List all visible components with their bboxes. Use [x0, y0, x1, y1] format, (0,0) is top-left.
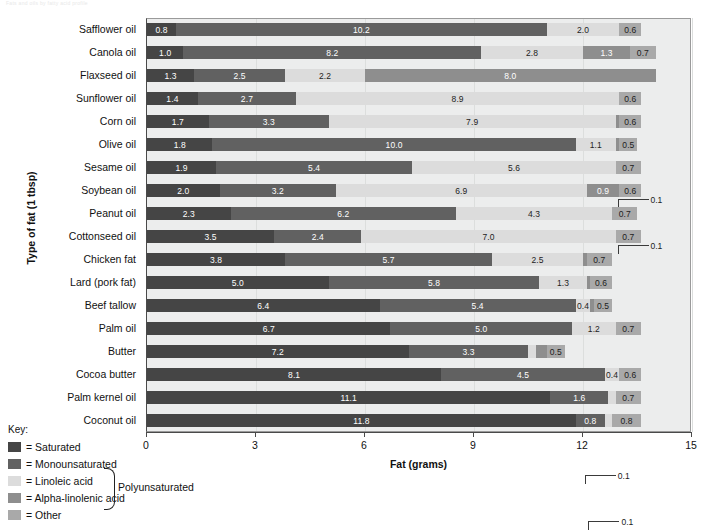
stacked-bar[interactable]: 1.95.45.60.7	[147, 161, 641, 174]
stacked-bar[interactable]: 2.03.26.90.90.6	[147, 184, 641, 197]
stacked-bar[interactable]: 1.32.52.28.0	[147, 69, 656, 82]
stacked-bar[interactable]: 2.36.24.30.7	[147, 207, 637, 220]
bar-segment: 6.7	[147, 322, 390, 335]
stacked-bar[interactable]: 7.23.30.5	[147, 345, 565, 358]
segment-value-label: 0.6	[619, 117, 641, 126]
bar-segment: 1.3	[147, 69, 194, 82]
chart-row: 1.95.45.60.7	[147, 156, 691, 179]
stacked-bar[interactable]: 5.05.81.30.6	[147, 276, 612, 289]
segment-value-label: 0.6	[619, 186, 641, 195]
bar-segment: 0.4	[576, 299, 591, 312]
bar-segment: 5.0	[147, 276, 329, 289]
segment-value-label: 0.8	[147, 25, 176, 34]
y-category-label: Chicken fat	[83, 248, 136, 271]
segment-value-label: 1.2	[572, 324, 616, 333]
bar-segment: 6.9	[336, 184, 587, 197]
stacked-bar[interactable]: 3.52.47.00.7	[147, 230, 641, 243]
bar-segment: 2.7	[198, 92, 296, 105]
x-tick-label: 9	[453, 439, 493, 451]
legend-item-label: = Saturated	[26, 441, 81, 453]
bar-segment: 1.3	[583, 46, 630, 59]
segment-value-label: 1.3	[147, 71, 194, 80]
x-tick-label: 6	[344, 439, 384, 451]
segment-value-label: 0.5	[547, 347, 565, 356]
x-tick	[473, 432, 474, 437]
chart-row: 5.05.81.30.60.1	[147, 271, 691, 294]
legend-item[interactable]: = Saturated	[8, 438, 208, 455]
bar-segment: 8.9	[296, 92, 619, 105]
y-category-label: Palm oil	[99, 317, 136, 340]
bar-segment: 7.2	[147, 345, 409, 358]
x-axis-label: Fat (grams)	[146, 458, 691, 470]
stacked-bar[interactable]: 8.14.50.40.6	[147, 368, 641, 381]
bar-segment: 0.7	[587, 253, 612, 266]
segment-value-label: 1.4	[147, 94, 198, 103]
bar-segment: 0.7	[616, 391, 641, 404]
bar-segment: 5.0	[390, 322, 572, 335]
chart-row: 0.810.22.00.6	[147, 18, 691, 41]
bar-segment: 4.5	[441, 368, 605, 381]
bar-segment: 0.6	[619, 23, 641, 36]
bar-segment: 1.3	[539, 276, 586, 289]
y-category-label: Flaxseed oil	[80, 64, 136, 87]
gridline	[692, 18, 693, 432]
y-category-label: Canola oil	[89, 41, 136, 64]
segment-value-label: 5.4	[380, 301, 576, 310]
segment-value-label: 5.0	[390, 324, 572, 333]
segment-value-label: 0.4	[576, 301, 591, 310]
bar-segment: 0.6	[619, 92, 641, 105]
segment-value-label: 1.1	[576, 140, 616, 149]
y-category-label: Cocoa butter	[76, 363, 136, 386]
bar-segment: 1.6	[550, 391, 608, 404]
bar-segment: 5.6	[412, 161, 615, 174]
segment-value-label: 8.0	[365, 71, 656, 80]
stacked-bar[interactable]: 1.810.01.10.5	[147, 138, 637, 151]
bar-segment: 0.5	[547, 345, 565, 358]
bar-segment: 0.5	[594, 299, 612, 312]
bar-segment: 6.2	[231, 207, 456, 220]
callout-value: 0.1	[618, 472, 630, 481]
stacked-bar[interactable]: 1.73.37.90.6	[147, 115, 641, 128]
bar-segment: 0.9	[587, 184, 620, 197]
bar-segment: 1.8	[147, 138, 212, 151]
legend-swatch-saturated	[8, 442, 21, 452]
stacked-bar[interactable]: 1.08.22.81.30.7	[147, 46, 656, 59]
x-tick	[364, 432, 365, 437]
stacked-bar[interactable]: 3.85.72.50.7	[147, 253, 612, 266]
segment-value-label: 4.5	[441, 370, 605, 379]
segment-value-label: 5.4	[216, 163, 412, 172]
plot-area: 0.810.22.00.61.08.22.81.30.71.32.52.28.0…	[146, 18, 691, 432]
bar-segment	[605, 414, 612, 427]
bar-segment: 11.1	[147, 391, 550, 404]
segment-value-label: 3.3	[209, 117, 329, 126]
segment-value-label: 0.6	[619, 370, 641, 379]
segment-value-label: 0.7	[630, 48, 655, 57]
stacked-bar[interactable]: 0.810.22.00.6	[147, 23, 641, 36]
bar-segment: 3.2	[220, 184, 336, 197]
segment-value-label: 0.6	[590, 278, 612, 287]
bar-segment: 1.0	[147, 46, 183, 59]
bar-segment: 11.8	[147, 414, 576, 427]
y-category-label: Peanut oil	[89, 202, 136, 225]
segment-value-label: 0.7	[616, 393, 641, 402]
segment-value-label: 2.5	[194, 71, 285, 80]
x-tick	[582, 432, 583, 437]
x-tick-label: 0	[126, 439, 166, 451]
segment-value-label: 1.9	[147, 163, 216, 172]
chart-row: 11.11.60.70.2	[147, 386, 691, 409]
stacked-bar[interactable]: 11.80.80.8	[147, 414, 641, 427]
chart-row: 1.810.01.10.50.1	[147, 133, 691, 156]
stacked-bar[interactable]: 11.11.60.7	[147, 391, 641, 404]
bar-segment: 0.8	[147, 23, 176, 36]
bar-segment	[536, 345, 547, 358]
stacked-bar[interactable]: 6.45.40.40.5	[147, 299, 612, 312]
bar-segment: 5.8	[329, 276, 540, 289]
chart-row: 1.42.78.90.6	[147, 87, 691, 110]
segment-value-label: 6.4	[147, 301, 380, 310]
stacked-bar[interactable]: 6.75.01.20.7	[147, 322, 641, 335]
bar-segment: 0.4	[605, 368, 620, 381]
stacked-bar[interactable]: 1.42.78.90.6	[147, 92, 641, 105]
y-category-label: Soybean oil	[81, 179, 136, 202]
chart-row: 3.52.47.00.7	[147, 225, 691, 248]
segment-value-label: 1.6	[550, 393, 608, 402]
